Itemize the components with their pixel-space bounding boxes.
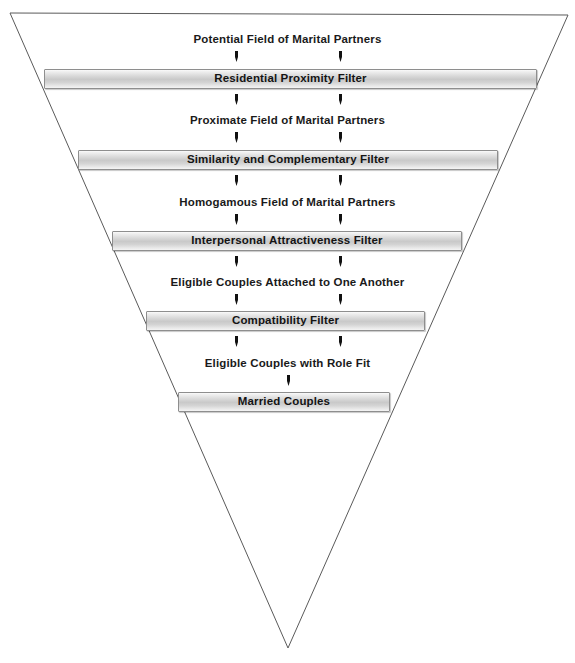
down-arrow-icon: [336, 94, 345, 106]
down-arrow-icon: [336, 214, 345, 226]
down-arrow-icon: [336, 175, 345, 187]
stage-label-eligible-couples-role-fit: Eligible Couples with Role Fit: [0, 357, 575, 369]
down-arrow-icon: [336, 294, 345, 306]
down-arrow-icon: [232, 51, 241, 63]
down-arrow-icon: [232, 175, 241, 187]
down-arrow-icon: [232, 94, 241, 106]
down-arrow-icon: [232, 256, 241, 268]
filter-bar-label: Residential Proximity Filter: [214, 73, 366, 85]
arrow-row-4: [0, 175, 575, 187]
filter-bar-label: Married Couples: [238, 396, 330, 408]
funnel-diagram: Potential Field of Marital Partners Resi…: [0, 0, 575, 663]
down-arrow-icon: [232, 336, 241, 348]
filter-bar-compatibility[interactable]: Compatibility Filter: [146, 311, 425, 331]
filter-bar-label: Interpersonal Attractiveness Filter: [191, 235, 382, 247]
arrow-row-2: [0, 94, 575, 106]
arrow-row-1: [0, 51, 575, 63]
filter-bar-label: Similarity and Complementary Filter: [187, 154, 389, 166]
down-arrow-icon: [336, 256, 345, 268]
arrow-row-3: [0, 132, 575, 144]
arrow-row-8: [0, 336, 575, 348]
filter-bar-residential-proximity[interactable]: Residential Proximity Filter: [44, 69, 537, 89]
filter-bar-label: Compatibility Filter: [232, 315, 339, 327]
stage-label-proximate-field: Proximate Field of Marital Partners: [0, 114, 575, 126]
filter-bar-married-couples[interactable]: Married Couples: [178, 392, 390, 412]
arrow-row-5: [0, 214, 575, 226]
down-arrow-icon: [232, 294, 241, 306]
stage-label-homogamous-field: Homogamous Field of Marital Partners: [0, 196, 575, 208]
filter-bar-interpersonal-attractiveness[interactable]: Interpersonal Attractiveness Filter: [112, 231, 462, 251]
arrow-row-9: [0, 375, 575, 387]
down-arrow-icon: [336, 51, 345, 63]
stage-label-potential-field: Potential Field of Marital Partners: [0, 33, 575, 45]
down-arrow-icon: [284, 375, 293, 387]
down-arrow-icon: [336, 336, 345, 348]
stage-label-eligible-couples-attached: Eligible Couples Attached to One Another: [0, 276, 575, 288]
filter-bar-similarity-complementary[interactable]: Similarity and Complementary Filter: [78, 150, 498, 170]
down-arrow-icon: [232, 214, 241, 226]
arrow-row-7: [0, 294, 575, 306]
arrow-row-6: [0, 256, 575, 268]
down-arrow-icon: [336, 132, 345, 144]
down-arrow-icon: [232, 132, 241, 144]
